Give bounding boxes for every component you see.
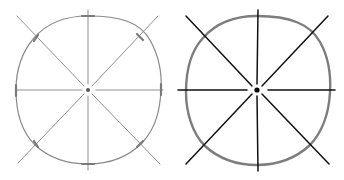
sketch-bold-center-dot — [254, 87, 259, 92]
sketch-light-center-dot — [86, 88, 90, 92]
sketch-bold-panel — [178, 10, 335, 171]
circle-sketches — [0, 0, 344, 180]
sketch-light-panel — [16, 10, 163, 170]
figure-stage — [0, 0, 344, 180]
